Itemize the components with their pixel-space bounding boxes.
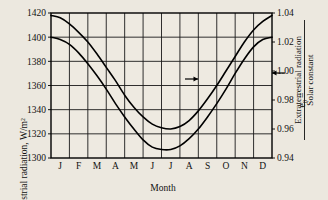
x-tick-label: J xyxy=(169,161,173,171)
y2-tick-label: 1.04 xyxy=(277,8,294,18)
y-tick-label: 1380 xyxy=(27,57,46,67)
y2-tick-label: 0.96 xyxy=(277,124,294,134)
y-tick-label: 1320 xyxy=(27,129,46,139)
x-tick-label: M xyxy=(130,161,139,171)
x-tick-label: S xyxy=(205,161,210,171)
extraterrestrial-radiation-chart: 1300132013401360138014001420 0.940.960.9… xyxy=(0,0,328,200)
x-tick-label: D xyxy=(259,161,266,171)
x-tick-label: A xyxy=(186,161,193,171)
x-tick-label: O xyxy=(223,161,230,171)
svg-text:Extraterrestrial radiation: Extraterrestrial radiation xyxy=(293,35,303,124)
x-axis-title: Month xyxy=(150,183,176,193)
x-tick-label: J xyxy=(58,161,62,171)
y-axis-title: Extraterrestrial radiation, W/m² xyxy=(19,118,29,200)
y-tick-label: 1420 xyxy=(27,8,46,18)
x-tick-label: A xyxy=(112,161,119,171)
y2-tick-label: 0.98 xyxy=(277,95,294,105)
x-tick-label: F xyxy=(76,161,81,171)
chart-figure: 1300132013401360138014001420 0.940.960.9… xyxy=(0,0,328,200)
y-tick-label: 1400 xyxy=(27,33,46,43)
x-tick-label: N xyxy=(241,161,248,171)
y-tick-label: 1300 xyxy=(27,153,46,163)
x-tick-label: M xyxy=(93,161,102,171)
y2-tick-label: 1.02 xyxy=(277,37,294,47)
y-tick-label: 1360 xyxy=(27,81,46,91)
y2-tick-label: 0.94 xyxy=(277,153,294,163)
x-tick-label: J xyxy=(150,161,154,171)
y2-tick-label: 1.00 xyxy=(277,66,294,76)
y-tick-label: 1340 xyxy=(27,105,46,115)
svg-text:Solar constant: Solar constant xyxy=(305,54,315,106)
